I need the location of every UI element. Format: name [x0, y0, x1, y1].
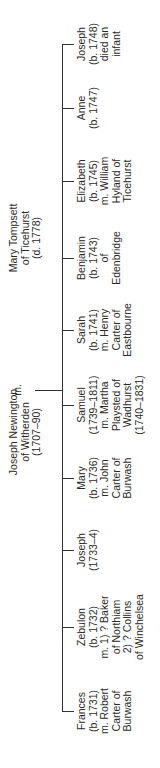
child-joseph-1748: Joseph (b. 1748) died an infant — [76, 0, 122, 94]
child-tick-mary — [62, 478, 74, 479]
marriage-symbol: m. — [12, 360, 24, 420]
child-detail: infant — [111, 0, 123, 94]
child-tick-joseph-1748 — [62, 44, 74, 45]
child-tick-anne — [62, 108, 74, 109]
child-detail: of Winchelsea — [134, 577, 146, 677]
child-tick-elizabeth — [62, 181, 74, 182]
child-tick-samuel — [62, 405, 74, 406]
child-detail: Eastbourne — [122, 280, 134, 380]
child-tick-frances — [62, 711, 74, 712]
mother-label: Mary Tompsett of Ticehurst (d. 1778) — [8, 148, 43, 328]
father-dates: (1707–90) — [31, 342, 43, 522]
mother-name: Mary Tompsett — [8, 148, 20, 328]
parent-connector-line — [35, 390, 63, 391]
child-detail: (1740–1831) — [134, 355, 146, 455]
child-tick-benjamin — [62, 258, 74, 259]
child-tick-sarah — [62, 330, 74, 331]
marriage-m: m. — [12, 360, 24, 420]
mother-dates: (d. 1778) — [31, 148, 43, 328]
child-tick-zebulon — [62, 627, 74, 628]
child-detail: Ticehurst — [122, 131, 134, 231]
child-tick-joseph-1733 — [62, 550, 74, 551]
sibling-bar-line — [62, 44, 63, 712]
child-name: Joseph — [76, 0, 88, 94]
